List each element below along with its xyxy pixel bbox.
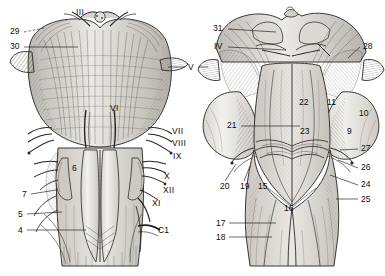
label-10: 10 <box>359 109 369 118</box>
label-20: 20 <box>220 182 230 191</box>
label-26: 26 <box>361 163 371 172</box>
label-III: III <box>76 8 84 17</box>
label-29: 29 <box>10 27 20 36</box>
label-XII: XII <box>163 186 175 195</box>
label-21: 21 <box>227 121 237 130</box>
label-IX: IX <box>173 152 182 161</box>
label-15: 15 <box>258 182 268 191</box>
label-VII: VII <box>172 127 184 136</box>
label-22: 22 <box>299 98 309 107</box>
label-17: 17 <box>216 219 226 228</box>
label-6: 6 <box>72 164 77 173</box>
label-18: 18 <box>216 233 226 242</box>
label-31: 31 <box>213 24 223 33</box>
label-30: 30 <box>10 42 20 51</box>
brainstem-illustration <box>0 0 385 276</box>
label-27: 27 <box>361 144 371 153</box>
label-XI: XI <box>152 199 161 208</box>
label-C1: C1 <box>158 226 169 235</box>
label-VIII: VIII <box>172 139 186 148</box>
label-24: 24 <box>361 180 371 189</box>
label-28: 28 <box>363 42 373 51</box>
label-23: 23 <box>300 127 310 136</box>
label-V: V <box>188 63 194 72</box>
anatomy-figure: III 29 30 VI VII VIII IX X XII XI 6 7 5 … <box>0 0 385 276</box>
label-19: 19 <box>240 182 250 191</box>
label-VI: VI <box>110 104 119 113</box>
label-4: 4 <box>18 226 23 235</box>
label-11: 11 <box>327 98 336 107</box>
label-16: 16 <box>284 204 294 213</box>
label-25: 25 <box>361 195 371 204</box>
label-IV: IV <box>214 42 223 51</box>
label-5: 5 <box>18 210 23 219</box>
label-X: X <box>164 172 170 181</box>
label-7: 7 <box>22 190 27 199</box>
label-9: 9 <box>347 127 352 136</box>
